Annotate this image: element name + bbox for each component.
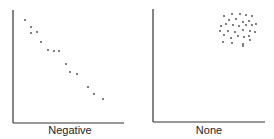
data-point: [243, 36, 245, 38]
data-point: [102, 98, 104, 100]
data-point: [30, 26, 32, 28]
data-point: [237, 35, 239, 37]
none-plot: [153, 9, 265, 122]
data-point: [65, 63, 67, 65]
data-point: [249, 30, 251, 32]
data-point: [58, 50, 60, 52]
data-point: [242, 29, 244, 31]
data-point: [248, 35, 250, 37]
scatter-plots: [0, 0, 274, 139]
data-point: [53, 50, 55, 52]
data-point: [232, 24, 234, 26]
data-point: [223, 34, 225, 36]
data-point: [238, 25, 240, 27]
data-point: [242, 43, 244, 45]
data-point: [69, 71, 71, 73]
data-point: [248, 20, 250, 22]
none-label: None: [149, 124, 269, 136]
data-point: [87, 86, 89, 88]
data-point: [245, 24, 247, 26]
data-point: [239, 13, 241, 15]
data-point: [255, 23, 257, 25]
data-point: [254, 31, 256, 33]
data-point: [235, 18, 237, 20]
data-point: [245, 14, 247, 16]
data-point: [40, 41, 42, 43]
data-point: [234, 31, 236, 33]
data-point: [230, 37, 232, 39]
data-point: [36, 31, 38, 33]
data-point: [242, 21, 244, 23]
negative-label: Negative: [10, 124, 130, 136]
data-point: [251, 24, 253, 26]
data-point: [219, 30, 221, 32]
data-point: [30, 32, 32, 34]
data-point: [220, 25, 222, 27]
data-point: [76, 73, 78, 75]
data-point: [222, 41, 224, 43]
data-point: [231, 42, 233, 44]
data-point: [242, 45, 244, 47]
data-point: [93, 93, 95, 95]
data-point: [47, 49, 49, 51]
data-point: [223, 15, 225, 17]
data-point: [251, 15, 253, 17]
data-point: [225, 23, 227, 25]
negative-plot: [13, 10, 124, 123]
data-point: [249, 39, 251, 41]
data-point: [231, 13, 233, 15]
data-point: [24, 19, 26, 21]
data-point: [227, 30, 229, 32]
data-point: [228, 19, 230, 21]
